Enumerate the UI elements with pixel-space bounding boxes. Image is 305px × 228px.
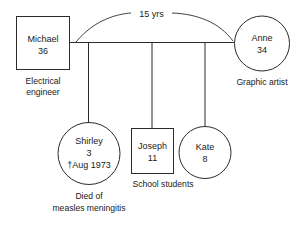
duration-arc-right xyxy=(172,13,233,41)
person-name-anne: Anne xyxy=(251,33,272,43)
duration-arc-left xyxy=(76,13,131,42)
person-name-joseph: Joseph xyxy=(138,141,167,151)
person-death-marker-shirley: †Aug 1973 xyxy=(67,160,111,170)
person-caption-michael-line2: engineer xyxy=(26,87,60,97)
person-name-michael: Michael xyxy=(27,34,58,44)
person-caption-shirley-line2: measles meningitis xyxy=(52,203,125,213)
genogram-diagram: 15 yrs Michael 36 Electrical engineer An… xyxy=(0,0,305,228)
person-name-kate: Kate xyxy=(196,142,215,152)
person-node-kate[interactable] xyxy=(179,127,231,179)
person-caption-michael-line1: Electrical xyxy=(26,76,61,86)
person-caption-shirley-line1: Died of xyxy=(75,191,103,201)
person-age-kate: 8 xyxy=(202,154,207,164)
group-caption-school-students: School students xyxy=(132,179,193,189)
person-node-anne[interactable] xyxy=(235,16,290,71)
person-name-shirley: Shirley xyxy=(75,136,103,146)
person-caption-anne-line1: Graphic artist xyxy=(236,77,288,87)
person-age-michael: 36 xyxy=(38,46,48,56)
person-node-joseph[interactable] xyxy=(132,129,174,174)
person-age-anne: 34 xyxy=(257,45,267,55)
person-age-shirley: 3 xyxy=(86,148,91,158)
relationship-duration-label: 15 yrs xyxy=(139,9,164,19)
person-age-joseph: 11 xyxy=(148,153,157,163)
